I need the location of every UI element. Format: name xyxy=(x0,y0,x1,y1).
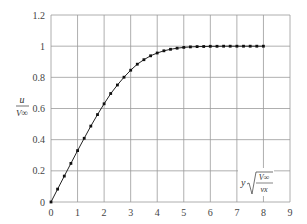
data-point-marker xyxy=(262,45,265,48)
x-axis-label: y V∞ νx xyxy=(238,168,274,196)
data-point-marker xyxy=(229,45,232,48)
x-tick-label: 9 xyxy=(288,207,293,218)
data-point-marker xyxy=(109,92,112,95)
data-point-marker xyxy=(103,102,106,105)
data-point-marker xyxy=(196,45,199,48)
y-tick-label: 0.6 xyxy=(33,103,46,114)
data-point-marker xyxy=(143,58,146,61)
x-tick-label: 0 xyxy=(49,207,54,218)
x-tick-label: 1 xyxy=(75,207,80,218)
y-tick-label: 1 xyxy=(40,41,45,52)
y-tick-label: 1.2 xyxy=(33,10,46,21)
data-point-marker xyxy=(63,175,66,178)
x-tick-label: 7 xyxy=(234,207,239,218)
data-point-marker xyxy=(116,84,119,87)
y-axis-label: u V∞ xyxy=(16,94,29,118)
data-point-marker xyxy=(123,76,126,79)
x-tick-label: 5 xyxy=(181,207,186,218)
data-point-marker xyxy=(182,46,185,49)
x-tick-label: 4 xyxy=(155,207,160,218)
data-point-marker xyxy=(222,45,225,48)
data-point-marker xyxy=(216,45,219,48)
x-tick-label: 2 xyxy=(102,207,107,218)
x-label-variable: y xyxy=(240,177,246,188)
data-point-marker xyxy=(176,47,179,50)
data-point-marker xyxy=(70,162,73,165)
data-point-marker xyxy=(169,48,172,51)
chart: 00.20.40.60.811.2 0123456789 u V∞ y V∞ ν… xyxy=(0,0,307,224)
y-axis-ticks: 00.20.40.60.811.2 xyxy=(33,10,46,208)
x-label-numerator: V∞ xyxy=(259,173,270,182)
data-point-marker xyxy=(136,63,139,66)
y-tick-label: 0.2 xyxy=(33,165,46,176)
data-point-marker xyxy=(209,45,212,48)
data-point-marker xyxy=(50,201,53,204)
x-axis-ticks: 0123456789 xyxy=(49,207,293,218)
data-point-marker xyxy=(163,49,166,52)
x-tick-label: 8 xyxy=(261,207,266,218)
data-point-marker xyxy=(56,188,59,191)
x-label-denominator: νx xyxy=(260,185,268,194)
data-point-marker xyxy=(149,54,152,57)
data-point-marker xyxy=(255,45,258,48)
x-tick-label: 3 xyxy=(128,207,133,218)
data-point-marker xyxy=(236,45,239,48)
y-tick-label: 0.4 xyxy=(33,134,46,145)
y-label-numerator: u xyxy=(20,94,25,105)
y-tick-label: 0.8 xyxy=(33,72,46,83)
data-point-marker xyxy=(156,52,159,55)
data-point-marker xyxy=(89,125,92,128)
data-point-marker xyxy=(242,45,245,48)
y-label-denominator: V∞ xyxy=(16,108,28,118)
data-point-marker xyxy=(189,46,192,49)
x-tick-label: 6 xyxy=(208,207,213,218)
data-point-marker xyxy=(129,69,132,72)
data-point-marker xyxy=(202,45,205,48)
y-tick-label: 0 xyxy=(40,197,45,208)
data-point-marker xyxy=(83,137,86,140)
data-point-marker xyxy=(96,113,99,116)
data-point-marker xyxy=(249,45,252,48)
data-point-marker xyxy=(76,149,79,152)
